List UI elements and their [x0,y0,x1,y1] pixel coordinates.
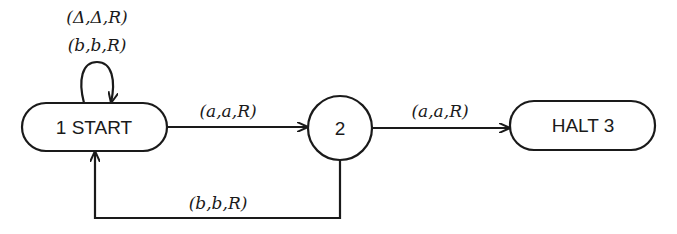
node-halt: HALT 3 [510,101,655,150]
state-diagram: (Δ,Δ,R) (b,b,R) 1 START (a,a,R) 2 (a,a,R… [0,0,677,234]
edge-label-2-to-start: (b,b,R) [189,193,248,213]
edge-label-loop-delta: (Δ,Δ,R) [66,7,127,27]
node-2: 2 [308,96,372,160]
edge-label-start-to-2: (a,a,R) [199,101,256,121]
edge-label-loop-b: (b,b,R) [68,35,127,55]
edge-2-to-start: (b,b,R) [95,151,340,218]
edge-label-2-to-halt: (a,a,R) [411,101,468,121]
edge-start-to-2: (a,a,R) [167,101,308,127]
edge-loop-start: (Δ,Δ,R) (b,b,R) [66,7,127,103]
node-2-label: 2 [335,118,346,139]
node-halt-label: HALT 3 [552,115,615,136]
node-start: 1 START [22,103,167,151]
edge-2-to-halt: (a,a,R) [372,101,510,128]
node-start-label: 1 START [56,117,133,138]
